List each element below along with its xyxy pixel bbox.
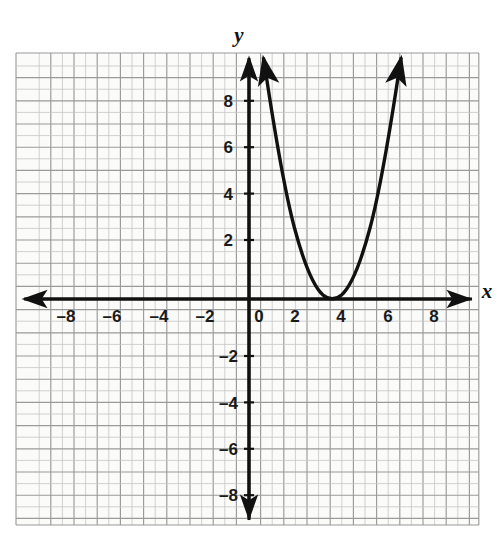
x-tick-label--2: –2 bbox=[196, 307, 215, 326]
y-tick-label-4: 4 bbox=[224, 185, 234, 204]
x-tick-label-0: 0 bbox=[254, 307, 263, 326]
coordinate-plane-svg: y x –8 –6 –4 –2 0 2 4 6 8 8 6 4 2 –2 –4 … bbox=[0, 0, 502, 541]
y-tick-label-2: 2 bbox=[224, 231, 233, 250]
x-tick-label-4: 4 bbox=[336, 307, 346, 326]
y-tick-label--4: –4 bbox=[219, 394, 238, 413]
x-tick-label-8: 8 bbox=[429, 307, 438, 326]
x-tick-label--8: –8 bbox=[57, 307, 76, 326]
x-axis-label: x bbox=[481, 279, 493, 303]
x-tick-label-6: 6 bbox=[383, 307, 392, 326]
x-tick-label-2: 2 bbox=[290, 307, 299, 326]
y-tick-label--8: –8 bbox=[219, 486, 238, 505]
x-tick-label--6: –6 bbox=[103, 307, 122, 326]
x-tick-label--4: –4 bbox=[150, 307, 169, 326]
y-tick-label-8: 8 bbox=[224, 92, 233, 111]
graph-figure: y x –8 –6 –4 –2 0 2 4 6 8 8 6 4 2 –2 –4 … bbox=[0, 0, 502, 541]
y-tick-label--6: –6 bbox=[219, 440, 238, 459]
y-tick-label--2: –2 bbox=[219, 347, 238, 366]
y-tick-label-6: 6 bbox=[224, 138, 233, 157]
